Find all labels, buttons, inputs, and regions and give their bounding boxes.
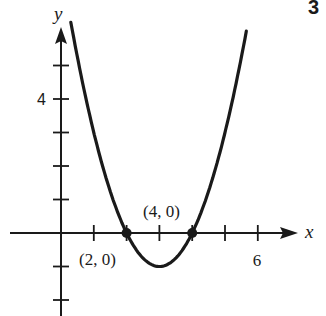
- parabola-graph: 3 (2, 0)(4, 0)xy64: [0, 0, 326, 316]
- intercept-dot: [187, 228, 197, 238]
- axes: [10, 27, 298, 316]
- y-axis-label: y: [52, 3, 63, 24]
- x-tick-label: 6: [253, 251, 261, 270]
- x-axis-label: x: [304, 221, 314, 242]
- problem-number: 3: [308, 0, 319, 18]
- intercept-label: (4, 0): [143, 202, 180, 221]
- intercept-label: (2, 0): [79, 250, 116, 269]
- y-tick-label: 4: [37, 91, 46, 108]
- axis-labels: (2, 0)(4, 0)xy64: [37, 3, 314, 270]
- intercept-dot: [122, 228, 132, 238]
